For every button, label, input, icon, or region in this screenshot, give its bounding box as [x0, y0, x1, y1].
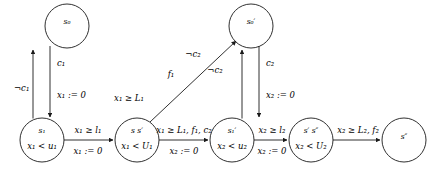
state-label-s0: s₀ [64, 18, 71, 26]
state-invariant-spspp: x₂ < U₂ [295, 142, 326, 151]
edge-label-s0p-to-s1p-assignment: x₂ := 0 [266, 91, 295, 100]
state-label-s1: s₁ [39, 127, 46, 135]
edge-label-ssp-to-s0p-guard: x₁ ≥ L₁ [114, 94, 144, 103]
edge-label-ssp-to-s1p-guard: x₁ ≥ L₁, f₁, c₂ [156, 126, 211, 135]
edge-label-s1p-to-spspp-guard: x₂ ≥ l₂ [259, 126, 286, 135]
state-label-s1p: s₁′ [228, 127, 237, 135]
edge-label-s1-to-s0-guard: ¬c₁ [14, 84, 29, 93]
state-label-s0p: s₀′ [247, 18, 256, 26]
state-invariant-ssp: x₁ < U₁ [121, 142, 152, 151]
edge-label-s1-to-ssp-assignment: x₁ := 0 [74, 147, 103, 156]
edge-label-s1p-to-s0p-guard: ¬c₂ [207, 66, 222, 75]
state-label-spspp: s′ s″ [304, 127, 319, 135]
edge-label-ssp-to-s0p-condition: ¬c₂ [185, 50, 200, 59]
edge-label-ssp-to-s1p-assignment: x₂ := 0 [170, 147, 199, 156]
edge-label-s0-to-s1-assignment: x₁ := 0 [57, 91, 86, 100]
edge-label-ssp-to-s0p-event: f₁ [168, 70, 175, 79]
edge-label-s0p-to-s1p-guard: c₂ [266, 59, 274, 68]
edge-label-s1p-to-spspp-assignment: x₂ := 0 [258, 147, 287, 156]
edge-label-spspp-to-spp-guard: x₂ ≥ L₂, f₂ [337, 126, 379, 135]
automaton-diagram: s₀ s₀′ s₁ x₁ < u₁ s s′ x₁ < U₁ s₁′ x₂ < … [0, 0, 436, 178]
edge-label-s1-to-ssp-guard: x₁ ≥ l₁ [75, 126, 102, 135]
state-label-spp: s″ [401, 133, 408, 141]
state-invariant-s1: x₁ < u₁ [27, 142, 57, 151]
diagram-edges-layer [0, 0, 436, 178]
edge-label-s0-to-s1-guard: c₁ [57, 59, 65, 68]
state-invariant-s1p: x₂ < u₂ [217, 142, 247, 151]
state-label-ssp: s s′ [131, 127, 143, 135]
